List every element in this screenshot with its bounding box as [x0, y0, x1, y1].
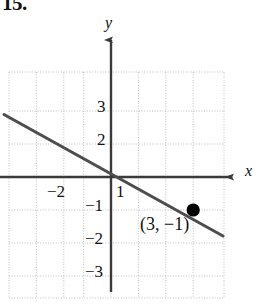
x-axis-label: x [245, 162, 252, 180]
y-axis-label: y [105, 14, 112, 32]
point-coordinate-label: (3, −1) [140, 214, 189, 235]
y-tick-label-2: 2 [97, 130, 106, 150]
y-tick-label-neg1: −1 [85, 196, 103, 216]
coordinate-plane-figure [0, 0, 261, 305]
axes [0, 40, 232, 292]
x-tick-label-neg2: −2 [47, 182, 65, 202]
y-tick-label-neg2: −2 [85, 229, 103, 249]
y-tick-label-3: 3 [97, 97, 106, 117]
x-tick-label-1: 1 [116, 182, 125, 202]
figure-page: 15. [0, 0, 261, 305]
y-tick-label-neg3: −3 [85, 262, 103, 282]
